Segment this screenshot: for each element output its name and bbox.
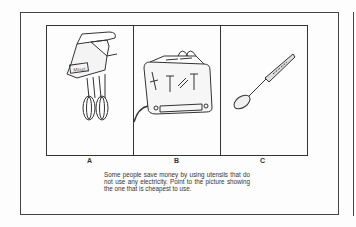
question-text: Some people save money by using utensils… bbox=[104, 171, 250, 193]
label-a: A bbox=[87, 157, 92, 164]
label-b: B bbox=[174, 157, 179, 164]
panel-labels: A B C bbox=[46, 157, 308, 167]
panel-a[interactable]: Mixer bbox=[47, 26, 133, 155]
panel-b[interactable] bbox=[133, 26, 220, 155]
panel-c[interactable] bbox=[220, 26, 307, 155]
hand-mixer-icon: Mixer bbox=[47, 26, 133, 155]
toaster-icon bbox=[134, 26, 220, 155]
picture-panels: Mixer bbox=[46, 25, 308, 156]
label-c: C bbox=[260, 157, 265, 164]
spoon-icon bbox=[221, 26, 309, 155]
page-edge-line bbox=[353, 12, 354, 216]
